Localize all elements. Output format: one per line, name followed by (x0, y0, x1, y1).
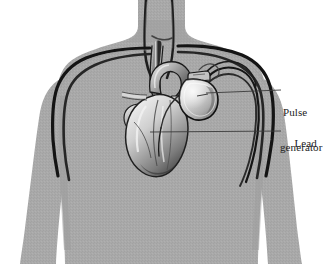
anatomical-illustration (0, 0, 328, 269)
callout-label-lead-line1: Lead (294, 137, 316, 149)
callout-label-lead: Lead (283, 126, 323, 161)
pacemaker-diagram-figure: Pulse generator Lead (0, 0, 328, 269)
callout-label-pulse-generator-line1: Pulse (283, 107, 328, 119)
